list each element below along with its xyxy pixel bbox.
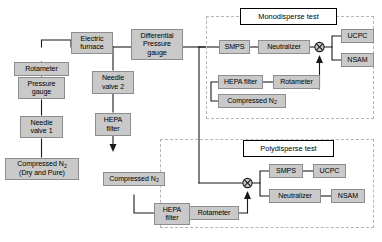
compressed-n2-poly-label: Compressed N2 [109,175,159,183]
exhaust-arrowhead [110,144,117,152]
node-hepa-filter-mid[interactable]: HEPA filter [95,113,131,136]
node-rotameter-left[interactable]: Rotameter [14,62,69,76]
node-compressed-n2-polydisperse[interactable]: Compressed N2 [103,172,165,186]
node-nsam-monodisperse[interactable]: NSAM [341,53,374,67]
node-neutralizer-monodisperse[interactable]: Neutralizer [258,40,310,54]
node-neutralizer-polydisperse[interactable]: Neutralizer [269,189,321,203]
node-smps-monodisperse[interactable]: SMPS [219,40,250,54]
node-needle-valve-2[interactable]: Needle valve 2 [92,71,134,94]
node-hepa-filter-polydisperse[interactable]: HEPA filter [154,203,190,225]
compressed-n2-source-line-1: Compressed N2 [17,160,67,169]
node-smps-polydisperse[interactable]: SMPS [269,164,303,178]
node-ucpc-polydisperse[interactable]: UCPC [313,164,346,178]
region-title-monodisperse: Monodisperse test [240,8,337,25]
node-needle-valve-1[interactable]: Needle valve 1 [20,116,63,138]
node-compressed-n2-source[interactable]: Compressed N2 (Dry and Pure) [5,158,79,180]
node-compressed-n2-monodisperse[interactable]: Compressed N2 [218,94,286,108]
node-pressure-gauge[interactable]: Pressure gauge [18,77,65,99]
node-rotameter-polydisperse[interactable]: Rotameter [189,206,239,220]
node-hepa-filter-monodisperse[interactable]: HEPA filter [218,75,263,89]
node-ucpc-monodisperse[interactable]: UCPC [341,29,374,43]
region-title-polydisperse: Polydisperse test [243,140,334,157]
compressed-n2-mono-label: Compressed N2 [227,97,277,105]
diagram-canvas: Monodisperse test Polydisperse test Elec… [0,0,382,242]
node-differential-pressure-gauge[interactable]: Differential Pressure gauge [131,29,183,60]
node-electric-furnace[interactable]: Electric furnace [71,32,113,54]
node-nsam-polydisperse[interactable]: NSAM [331,189,365,203]
node-rotameter-monodisperse[interactable]: Rotameter [273,75,320,89]
compressed-n2-source-line-2: (Dry and Pure) [19,169,65,178]
